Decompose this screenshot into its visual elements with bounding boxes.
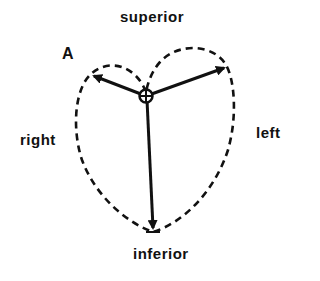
label-left-side: left bbox=[256, 124, 281, 141]
label-superior: superior bbox=[120, 8, 184, 25]
dashed-loop-outline bbox=[76, 48, 234, 232]
arrow-upper-right bbox=[146, 68, 224, 96]
label-inferior: inferior bbox=[133, 245, 189, 262]
origin-node-icon bbox=[139, 89, 153, 103]
label-right-side: right bbox=[20, 131, 56, 148]
panel-label: A bbox=[62, 45, 74, 63]
arrow-inferior bbox=[147, 100, 153, 228]
